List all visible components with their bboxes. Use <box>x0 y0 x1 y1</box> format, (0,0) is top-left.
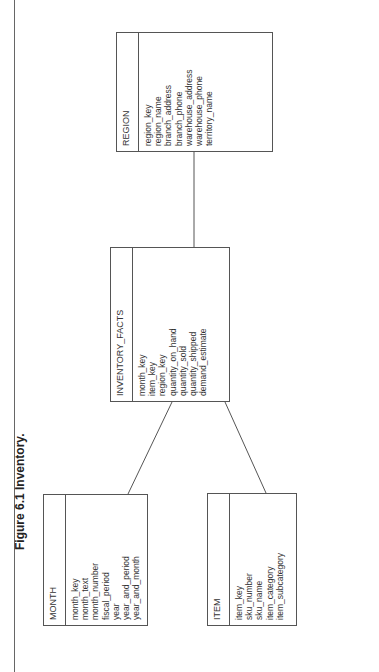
attribute: sku_number <box>244 499 254 620</box>
month-facts-connector <box>128 402 172 494</box>
attribute: demand_estimate <box>198 253 208 396</box>
attribute-list: item_key sku_number sku_name item_catego… <box>230 494 289 625</box>
attribute: region_key <box>157 253 167 396</box>
attribute: territory_name <box>204 38 214 146</box>
attribute: sku_name <box>254 499 264 620</box>
entity-name: ITEM <box>208 494 230 625</box>
attribute: branch_address <box>163 38 173 146</box>
attribute-list: month_key month_text month_number fiscal… <box>66 495 145 625</box>
attribute: month_number <box>90 500 100 620</box>
attribute: warehouse_address <box>184 38 194 146</box>
attribute: month_text <box>80 500 90 620</box>
attribute: month_key <box>70 500 80 620</box>
attribute: item_category <box>265 499 275 620</box>
attribute: month_key <box>137 253 147 396</box>
attribute: quantity_sold <box>178 253 188 396</box>
attribute: quantity_on_hand <box>168 253 178 396</box>
attribute: region_key <box>143 38 153 146</box>
attribute-list: region_key region_name branch_address br… <box>139 33 218 151</box>
attribute: year <box>111 500 121 620</box>
attribute: quantity_shipped <box>188 253 198 396</box>
attribute: warehouse_phone <box>194 38 204 146</box>
entity-name: REGION <box>117 33 139 151</box>
item-facts-connector <box>225 402 266 493</box>
entity-name: INVENTORY_FACTS <box>111 248 133 401</box>
attribute: year_and_period <box>121 500 131 620</box>
attribute: item_key <box>234 499 244 620</box>
attribute: branch_phone <box>174 38 184 146</box>
attribute: region_name <box>153 38 163 146</box>
attribute-list: month_key item_key region_key quantity_o… <box>133 248 212 401</box>
entity-name: MONTH <box>44 495 66 625</box>
attribute: item_key <box>147 253 157 396</box>
attribute: year_and_month <box>131 500 141 620</box>
attribute: item_subcategory <box>275 499 285 620</box>
attribute: fiscal_period <box>101 500 111 620</box>
